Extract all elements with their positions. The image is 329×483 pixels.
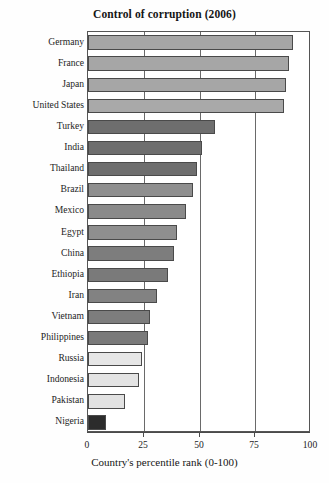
category-label-turkey: Turkey (3, 121, 87, 131)
bar-ethiopia (88, 268, 168, 282)
plot-area (87, 31, 310, 432)
bar-row (88, 289, 309, 303)
chart-figure: Control of corruption (2006) GermanyFran… (0, 0, 329, 483)
bar-thailand (88, 162, 197, 176)
category-label-mexico: Mexico (3, 205, 87, 215)
bar-china (88, 246, 174, 260)
category-label-pakistan: Pakistan (3, 395, 87, 405)
bar-row (88, 394, 309, 408)
x-axis-title: Country's percentile rank (0-100) (0, 456, 329, 468)
x-tick-mark-75 (254, 432, 255, 437)
x-tick-label-100: 100 (295, 439, 325, 450)
x-tick-label-0: 0 (72, 439, 102, 450)
bar-row (88, 183, 309, 197)
bar-united-states (88, 99, 284, 113)
x-tick-mark-25 (143, 432, 144, 437)
bar-row (88, 331, 309, 345)
bar-row (88, 78, 309, 92)
bar-row (88, 268, 309, 282)
category-label-france: France (3, 58, 87, 68)
bar-turkey (88, 120, 215, 134)
bar-row (88, 99, 309, 113)
bar-row (88, 310, 309, 324)
bar-rows (88, 32, 309, 431)
bar-indonesia (88, 373, 139, 387)
category-label-brazil: Brazil (3, 184, 87, 194)
bar-row (88, 120, 309, 134)
category-label-ethiopia: Ethiopia (3, 269, 87, 279)
category-label-philippines: Philippines (3, 332, 87, 342)
x-tick-label-75: 75 (239, 439, 269, 450)
bar-vietnam (88, 310, 150, 324)
bar-row (88, 204, 309, 218)
bar-mexico (88, 204, 186, 218)
bar-france (88, 56, 289, 70)
bar-row (88, 141, 309, 155)
bar-row (88, 246, 309, 260)
bar-russia (88, 352, 142, 366)
category-label-china: China (3, 248, 87, 258)
category-label-indonesia: Indonesia (3, 374, 87, 384)
bar-row (88, 35, 309, 49)
category-label-india: India (3, 142, 87, 152)
category-label-united-states: United States (3, 100, 87, 110)
x-tick-mark-50 (199, 432, 200, 437)
bar-germany (88, 35, 293, 49)
category-label-iran: Iran (3, 290, 87, 300)
x-tick-label-25: 25 (128, 439, 158, 450)
bar-row (88, 352, 309, 366)
bar-iran (88, 289, 157, 303)
bar-japan (88, 78, 286, 92)
category-label-japan: Japan (3, 79, 87, 89)
category-label-germany: Germany (3, 37, 87, 47)
y-axis-category-labels: GermanyFranceJapanUnited StatesTurkeyInd… (0, 31, 87, 432)
bar-philippines (88, 331, 148, 345)
bar-row (88, 225, 309, 239)
category-label-russia: Russia (3, 353, 87, 363)
bar-nigeria (88, 415, 106, 429)
bar-egypt (88, 225, 177, 239)
chart-title: Control of corruption (2006) (0, 8, 329, 20)
bar-pakistan (88, 394, 125, 408)
bar-india (88, 141, 202, 155)
category-label-nigeria: Nigeria (3, 416, 87, 426)
category-label-vietnam: Vietnam (3, 311, 87, 321)
bar-row (88, 415, 309, 429)
bar-row (88, 162, 309, 176)
category-label-thailand: Thailand (3, 163, 87, 173)
category-label-egypt: Egypt (3, 227, 87, 237)
bar-row (88, 56, 309, 70)
bar-row (88, 373, 309, 387)
x-tick-label-50: 50 (184, 439, 214, 450)
bar-brazil (88, 183, 193, 197)
